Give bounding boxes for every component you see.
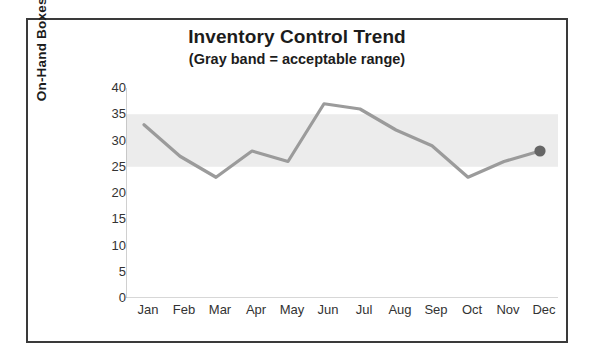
y-axis-title: On-Hand Boxes of Meat [34, 0, 52, 128]
y-tick-label: 20 [100, 185, 126, 200]
chart-subtitle: (Gray band = acceptable range) [28, 49, 566, 69]
last-point-marker [534, 145, 545, 156]
chart-canvas [126, 88, 558, 298]
plot-area: 40 35 30 25 20 15 10 5 0 Jan Feb Mar Apr… [88, 88, 558, 334]
y-tick-label: 35 [100, 106, 126, 121]
y-tick-label: 10 [100, 238, 126, 253]
title-block: Inventory Control Trend (Gray band = acc… [28, 26, 566, 69]
y-tick-label: 40 [100, 80, 126, 95]
acceptable-range-band [126, 114, 558, 167]
y-tick-label: 5 [100, 264, 126, 279]
y-tick-label: 25 [100, 159, 126, 174]
page-title: Inventory Control Trend [28, 26, 566, 48]
y-tick-label: 0 [100, 290, 126, 305]
y-tick-label: 15 [100, 211, 126, 226]
y-tick-label: 30 [100, 133, 126, 148]
chart-frame: Inventory Control Trend (Gray band = acc… [26, 18, 568, 343]
x-tick-label-dec: Dec [522, 302, 566, 317]
